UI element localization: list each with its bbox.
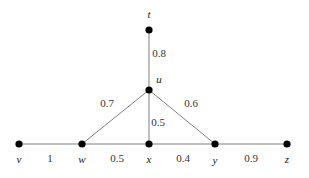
graph-canvas: [0, 0, 309, 178]
graph-edge: [149, 90, 215, 144]
graph-node: [145, 26, 152, 33]
graph-node: [283, 140, 290, 147]
graph-node: [211, 140, 218, 147]
nodes-group: [15, 26, 290, 147]
graph-node: [145, 140, 152, 147]
edges-group: [19, 30, 287, 144]
graph-figure: 0.80.70.50.610.50.40.9tuvwxyz: [0, 0, 309, 178]
graph-edge: [82, 90, 149, 144]
graph-node: [78, 140, 85, 147]
graph-node: [15, 140, 22, 147]
graph-node: [145, 86, 152, 93]
